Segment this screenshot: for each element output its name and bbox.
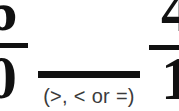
right-fraction-numerator: 4 [153, 0, 179, 41]
left-fraction: 6 0 [0, 0, 24, 111]
right-fraction-denominator: 1 [153, 47, 179, 109]
left-fraction-denominator: 0 [0, 46, 24, 108]
left-fraction-numerator: 6 [0, 0, 24, 40]
comparison-operator-hint: (>, < or =) [33, 84, 145, 108]
right-fraction: 4 1 [149, 0, 179, 111]
comparison-answer-blank[interactable] [38, 71, 140, 78]
fraction-comparison-problem: 6 0 (>, < or =) 4 1 [0, 0, 179, 111]
